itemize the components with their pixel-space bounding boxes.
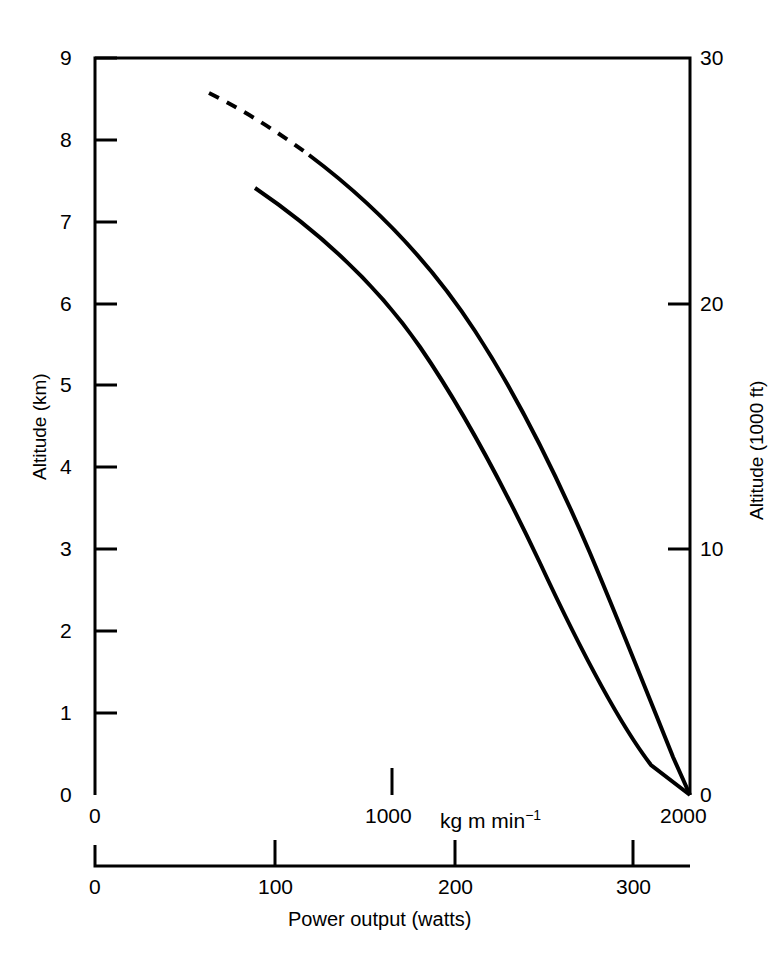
watt-tick-label-200: 200 [438, 876, 473, 897]
kg-tick-label-2000: 2000 [660, 805, 707, 826]
upper-curve-dashed [209, 93, 309, 155]
y-tick-label-2: 2 [60, 620, 72, 641]
watt-tick-label-0: 0 [89, 876, 101, 897]
y-tick-label-1: 1 [60, 702, 72, 723]
y2-tick-label-0: 0 [700, 784, 712, 805]
chart-figure: 9 8 7 6 5 4 3 2 1 0 30 20 10 0 0 1000 20… [0, 0, 782, 956]
x-axis-title: Power output (watts) [288, 910, 471, 929]
y-tick-label-9: 9 [60, 47, 72, 68]
kg-unit-label: kg m min−1 [440, 805, 541, 831]
lower-curve [255, 188, 690, 795]
y2-tick-label-10: 10 [700, 538, 723, 559]
watt-tick-label-300: 300 [616, 876, 651, 897]
y-tick-label-4: 4 [60, 456, 72, 477]
y-tick-label-5: 5 [60, 374, 72, 395]
kg-tick-label-1000: 1000 [365, 805, 412, 826]
y-tick-label-3: 3 [60, 538, 72, 559]
left-axis-ticks [95, 58, 117, 713]
y2-tick-label-30: 30 [700, 47, 723, 68]
y2-axis-title: Altitude (1000 ft) [747, 381, 766, 520]
upper-curve-solid [309, 155, 690, 795]
y-axis-title: Altitude (km) [30, 373, 49, 480]
y-tick-label-6: 6 [60, 293, 72, 314]
kg-unit-exponent: −1 [525, 807, 541, 823]
y-tick-label-7: 7 [60, 211, 72, 232]
watt-tick-label-100: 100 [258, 876, 293, 897]
y-tick-label-0: 0 [60, 784, 72, 805]
right-axis-ticks [668, 304, 690, 549]
watts-axis [95, 840, 690, 866]
kg-tick-label-0: 0 [89, 805, 101, 826]
kg-unit-text: kg m min [440, 809, 525, 832]
y2-tick-label-20: 20 [700, 293, 723, 314]
y-tick-label-8: 8 [60, 129, 72, 150]
